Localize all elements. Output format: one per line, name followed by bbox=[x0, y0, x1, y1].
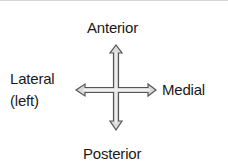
four-way-arrow-icon bbox=[0, 0, 228, 168]
